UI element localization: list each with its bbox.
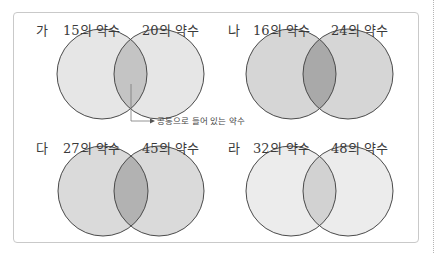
venn-panel-ga: 가 15의 약수 20의 약수 공통으로 들어 있는 약수 — [36, 23, 245, 126]
venn-panel-da: 다 27의 약수 45의 약수 — [36, 141, 204, 236]
venn-panel-ra: 라 32의 약수 48의 약수 — [228, 141, 393, 236]
panel-tag: 나 — [228, 23, 240, 38]
left-set-label: 32의 약수 — [253, 141, 310, 156]
right-set-label: 45의 약수 — [142, 141, 199, 156]
left-set-label: 15의 약수 — [63, 23, 120, 38]
venn-diagrams: 가 15의 약수 20의 약수 공통으로 들어 있는 약수 나 16의 약수 2… — [0, 0, 436, 253]
left-set-label: 27의 약수 — [63, 141, 120, 156]
panel-tag: 라 — [228, 141, 240, 156]
panel-tag: 다 — [36, 141, 48, 156]
venn-panel-na: 나 16의 약수 24의 약수 — [228, 23, 393, 119]
right-set-label: 48의 약수 — [331, 141, 388, 156]
right-set-label: 20의 약수 — [142, 23, 199, 38]
annotation-text: 공통으로 들어 있는 약수 — [157, 116, 245, 126]
left-set-label: 16의 약수 — [253, 23, 310, 38]
right-set-label: 24의 약수 — [331, 23, 388, 38]
panel-tag: 가 — [36, 23, 48, 38]
